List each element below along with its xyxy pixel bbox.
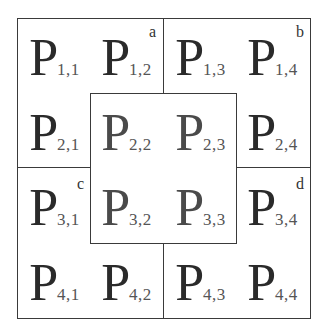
cell-letter: P bbox=[175, 32, 204, 84]
cell-p-1-2: P1,2 bbox=[90, 18, 163, 93]
cell-p-2-4: P2,4 bbox=[236, 93, 309, 168]
cell-letter: P bbox=[175, 182, 204, 234]
cell-p-1-1: P1,1 bbox=[18, 18, 91, 93]
cell-p-1-3: P1,3 bbox=[164, 18, 237, 93]
cell-letter: P bbox=[175, 257, 204, 309]
cell-subscript: 1,2 bbox=[129, 60, 152, 80]
cell-p-4-4: P4,4 bbox=[236, 243, 309, 318]
cell-letter: P bbox=[29, 107, 58, 159]
cell-subscript: 3,3 bbox=[203, 210, 226, 230]
cell-subscript: 1,3 bbox=[203, 60, 226, 80]
cell-letter: P bbox=[101, 182, 130, 234]
cell-subscript: 4,1 bbox=[57, 285, 80, 305]
cell-letter: P bbox=[175, 107, 204, 159]
cell-p-3-4: P3,4 bbox=[236, 168, 309, 243]
cell-p-3-3: P3,3 bbox=[164, 168, 237, 243]
cell-letter: P bbox=[101, 107, 130, 159]
cell-letter: P bbox=[101, 257, 130, 309]
cell-subscript: 2,1 bbox=[57, 135, 80, 155]
cell-letter: P bbox=[247, 107, 276, 159]
cell-letter: P bbox=[29, 32, 58, 84]
cell-subscript: 1,4 bbox=[275, 60, 298, 80]
cell-subscript: 4,4 bbox=[275, 285, 298, 305]
cell-letter: P bbox=[29, 257, 58, 309]
cell-subscript: 1,1 bbox=[57, 60, 80, 80]
cell-letter: P bbox=[247, 182, 276, 234]
cell-subscript: 3,1 bbox=[57, 210, 80, 230]
cell-p-4-2: P4,2 bbox=[90, 243, 163, 318]
cell-p-2-1: P2,1 bbox=[18, 93, 91, 168]
cell-p-3-1: P3,1 bbox=[18, 168, 91, 243]
cell-subscript: 2,4 bbox=[275, 135, 298, 155]
cell-p-1-4: P1,4 bbox=[236, 18, 309, 93]
cell-p-2-3: P2,3 bbox=[164, 93, 237, 168]
cell-subscript: 3,4 bbox=[275, 210, 298, 230]
cell-p-2-2: P2,2 bbox=[90, 93, 163, 168]
cell-letter: P bbox=[29, 182, 58, 234]
cell-subscript: 3,2 bbox=[129, 210, 152, 230]
cell-subscript: 4,2 bbox=[129, 285, 152, 305]
cell-letter: P bbox=[247, 257, 276, 309]
cell-p-4-3: P4,3 bbox=[164, 243, 237, 318]
cell-p-3-2: P3,2 bbox=[90, 168, 163, 243]
cell-subscript: 2,2 bbox=[129, 135, 152, 155]
cell-subscript: 4,3 bbox=[203, 285, 226, 305]
cell-letter: P bbox=[247, 32, 276, 84]
cell-p-4-1: P4,1 bbox=[18, 243, 91, 318]
cell-subscript: 2,3 bbox=[203, 135, 226, 155]
cell-letter: P bbox=[101, 32, 130, 84]
